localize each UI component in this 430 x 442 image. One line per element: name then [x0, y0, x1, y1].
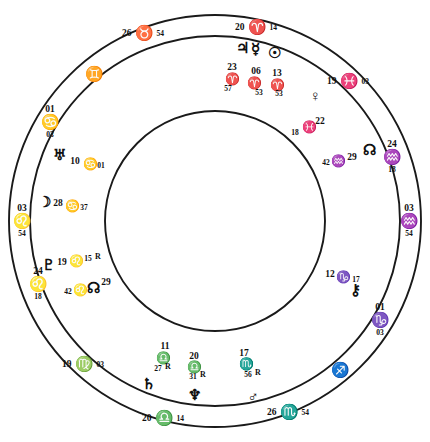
astrology-chart-wheel: 03♌5424♌1819♍0320♎1426♏5401♑0303♒5424♒18…	[0, 0, 430, 442]
wheel-rings	[9, 15, 421, 427]
house-band-inner-circle	[105, 111, 325, 331]
chart-wheel-graphic	[0, 0, 430, 442]
sign-band-inner-circle	[30, 36, 400, 406]
outer-ring-circle	[9, 15, 421, 427]
